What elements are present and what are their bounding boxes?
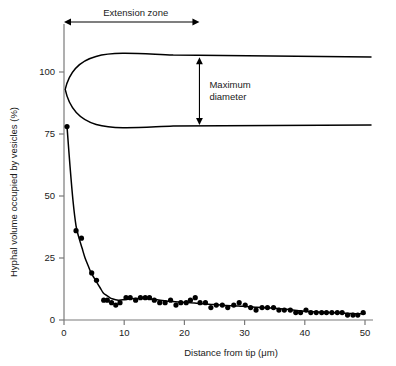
data-point (355, 312, 360, 317)
x-axis-label: Distance from tip (μm) (184, 347, 278, 358)
data-point (314, 310, 319, 315)
data-point (319, 310, 324, 315)
y-axis-ticks: 0255075100 (39, 66, 64, 325)
extension-zone-label: Extension zone (103, 7, 168, 18)
data-point (64, 124, 69, 129)
chart-figure: Extension zone Maximum diameter 02550751… (0, 0, 396, 366)
y-tick-label: 50 (44, 190, 55, 201)
data-point (237, 300, 242, 305)
data-point (220, 303, 225, 308)
data-point (276, 307, 281, 312)
data-point (324, 310, 329, 315)
data-point (128, 295, 133, 300)
data-point (178, 300, 183, 305)
data-point (243, 303, 248, 308)
data-point (308, 310, 313, 315)
data-point (231, 303, 236, 308)
data-point (173, 303, 178, 308)
data-point (208, 305, 213, 310)
x-axis-ticks: 01020304050 (61, 320, 370, 338)
fitted-curve (67, 127, 365, 314)
maximum-diameter-label-line2: diameter (209, 91, 246, 102)
data-point (193, 295, 198, 300)
data-point (225, 305, 230, 310)
extension-zone-annotation: Extension zone (64, 7, 199, 25)
plot-axes: 0255075100 01020304050 (39, 24, 373, 338)
data-point (117, 300, 122, 305)
data-point (79, 236, 84, 241)
data-point (89, 270, 94, 275)
data-point (163, 300, 168, 305)
data-point (214, 303, 219, 308)
maximum-diameter-arrowhead-bottom-icon (196, 118, 203, 125)
x-tick-label: 10 (119, 327, 130, 338)
plot-data (64, 124, 365, 318)
maximum-diameter-annotation: Maximum diameter (196, 57, 251, 125)
data-point (188, 298, 193, 303)
data-point-series (64, 124, 365, 318)
extension-zone-arrowhead-left-icon (64, 19, 71, 26)
x-tick-label: 40 (300, 327, 311, 338)
data-point (335, 310, 340, 315)
y-tick-label: 75 (44, 128, 55, 139)
y-tick-label: 100 (39, 66, 55, 77)
data-point (147, 295, 152, 300)
data-point (259, 305, 264, 310)
y-tick-label: 25 (44, 252, 55, 263)
x-tick-label: 20 (179, 327, 190, 338)
data-point (138, 295, 143, 300)
maximum-diameter-label-line1: Maximum (209, 79, 250, 90)
x-tick-label: 30 (239, 327, 250, 338)
data-point (203, 300, 208, 305)
data-point (303, 307, 308, 312)
data-point (133, 298, 138, 303)
data-point (298, 310, 303, 315)
data-point (197, 300, 202, 305)
data-point (271, 305, 276, 310)
x-tick-label: 50 (360, 327, 371, 338)
data-point (345, 312, 350, 317)
data-point (288, 307, 293, 312)
y-axis-label: Hyphal volume occupied by vesicles (%) (8, 107, 19, 277)
data-point (361, 310, 366, 315)
data-point (248, 305, 253, 310)
data-point (329, 310, 334, 315)
data-point (152, 298, 157, 303)
data-point (282, 307, 287, 312)
maximum-diameter-arrowhead-top-icon (196, 57, 203, 64)
data-point (293, 310, 298, 315)
data-point (73, 228, 78, 233)
data-point (168, 298, 173, 303)
data-point (157, 300, 162, 305)
data-point (350, 312, 355, 317)
x-tick-label: 0 (61, 327, 66, 338)
data-point (94, 278, 99, 283)
data-point (265, 305, 270, 310)
y-tick-label: 0 (50, 314, 55, 325)
data-point (340, 310, 345, 315)
data-point (253, 307, 258, 312)
extension-zone-arrowhead-right-icon (192, 19, 199, 26)
